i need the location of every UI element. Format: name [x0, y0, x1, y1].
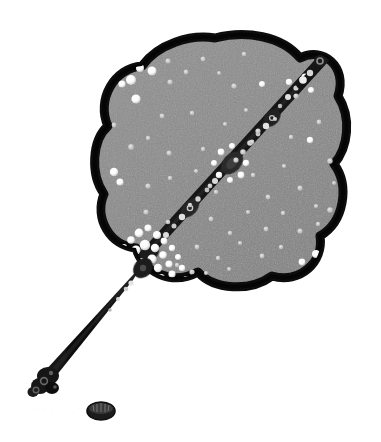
- speck-dot: [165, 260, 172, 267]
- speck-dot: [289, 135, 293, 139]
- speck-dot: [126, 75, 136, 85]
- speck-dot: [229, 143, 235, 149]
- speck-dot: [175, 254, 181, 260]
- speck-dot: [201, 57, 206, 62]
- speck-dot: [279, 245, 283, 249]
- speck-dot: [243, 160, 249, 166]
- speck-dot: [240, 149, 246, 155]
- speck-dot: [145, 183, 150, 188]
- speck-dot: [144, 224, 151, 231]
- speck-dot: [190, 111, 195, 116]
- speck-dot: [246, 210, 250, 214]
- speck-dot: [168, 176, 172, 180]
- speck-dot: [297, 228, 302, 233]
- speck-dot: [281, 211, 285, 215]
- speck-dot: [116, 178, 123, 185]
- speck-dot: [179, 265, 185, 271]
- speck-dot: [251, 173, 255, 177]
- speck-dot: [168, 270, 175, 277]
- detached-ellipse: [87, 402, 115, 420]
- speck-dot: [327, 207, 333, 213]
- speck-dot: [211, 160, 217, 166]
- speck-dot: [135, 229, 144, 238]
- speck-dot: [204, 271, 208, 275]
- speck-dot: [195, 245, 200, 250]
- speck-dot: [227, 177, 233, 183]
- speck-dot: [127, 236, 135, 244]
- speck-dot: [154, 264, 162, 272]
- speck-dot: [297, 185, 302, 190]
- speck-dot: [299, 259, 306, 266]
- speck-dot: [260, 254, 265, 259]
- speck-dot: [194, 169, 198, 173]
- speck-dot: [307, 137, 313, 143]
- speck-dot: [159, 251, 167, 259]
- speck-dot: [128, 144, 134, 150]
- speck-dot: [151, 244, 159, 252]
- speck-dot: [317, 120, 322, 125]
- speck-dot: [217, 71, 221, 75]
- speck-dot: [189, 269, 194, 274]
- speck-dot: [148, 67, 157, 76]
- speck-dot: [308, 87, 314, 93]
- speck-dot: [188, 203, 192, 207]
- speck-dot: [143, 209, 148, 214]
- speck-dot: [293, 93, 298, 98]
- speck-dot: [160, 114, 165, 119]
- speck-dot: [214, 190, 218, 194]
- speck-dot: [327, 158, 332, 163]
- speck-dot: [223, 122, 227, 126]
- figure-canvas: · · · · · ·: [0, 0, 381, 442]
- specimen-figure: [0, 0, 381, 442]
- speck-dot: [244, 108, 248, 112]
- speck-dot: [169, 245, 175, 251]
- speck-dot: [238, 172, 245, 179]
- speck-dot: [184, 70, 189, 75]
- speck-dot: [161, 238, 168, 245]
- speck-dot: [140, 240, 150, 250]
- speck-dot: [332, 181, 336, 185]
- speck-dot: [266, 195, 271, 200]
- speck-dot: [153, 231, 161, 239]
- speck-dot: [146, 136, 150, 140]
- speck-dot: [218, 149, 225, 156]
- speck-dot: [216, 256, 220, 260]
- speck-dot: [112, 123, 117, 128]
- speck-dot: [166, 220, 171, 225]
- speck-dot: [255, 128, 260, 133]
- speck-dot: [242, 52, 246, 56]
- speck-dot: [209, 217, 214, 222]
- speck-dot: [118, 80, 125, 87]
- speck-dot: [286, 79, 292, 85]
- speck-dot: [208, 184, 213, 189]
- speck-dot: [233, 157, 238, 162]
- speck-dot: [228, 231, 232, 235]
- speck-dot: [131, 94, 140, 103]
- speck-dot: [167, 151, 172, 156]
- speck-dot: [227, 267, 231, 271]
- speck-dot: [165, 58, 170, 63]
- speck-dot: [167, 79, 172, 84]
- speck-dot: [175, 263, 179, 267]
- speck-dot: [238, 241, 242, 245]
- speck-dot: [264, 227, 269, 232]
- speck-dot: [316, 222, 320, 226]
- speck-dot: [216, 172, 222, 178]
- speck-dot: [231, 83, 236, 88]
- speck-dot: [259, 81, 265, 87]
- speck-dot: [314, 204, 318, 208]
- speck-dot: [250, 140, 255, 145]
- speck-dot: [273, 117, 277, 121]
- speck-dot: [201, 147, 205, 151]
- speck-dot: [282, 164, 286, 168]
- speck-dot: [110, 168, 118, 176]
